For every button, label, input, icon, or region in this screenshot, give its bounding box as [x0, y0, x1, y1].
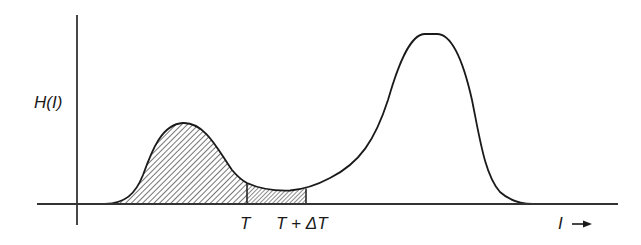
threshold-label-T-plus-delta: T + ΔT [276, 214, 328, 234]
histogram-plot [0, 0, 641, 245]
y-axis-label: H(I) [34, 93, 62, 113]
histogram-diagram: H(I) T T + ΔT I [0, 0, 641, 245]
shaded-region-below-threshold [105, 123, 247, 204]
arrow-right-icon [572, 221, 592, 228]
threshold-label-T: T [240, 214, 250, 234]
x-axis-label: I [558, 214, 563, 234]
